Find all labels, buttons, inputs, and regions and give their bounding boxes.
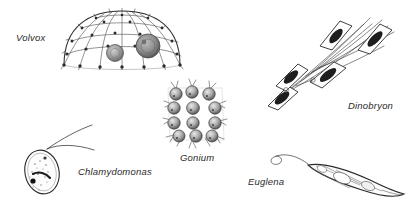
label-chlamydomonas: Chlamydomonas	[78, 166, 152, 177]
organism-euglena	[262, 140, 410, 202]
label-gonium: Gonium	[180, 152, 214, 163]
label-dinobryon: Dinobryon	[348, 100, 393, 111]
dinobryon-lorica	[320, 21, 352, 50]
organism-chlamydomonas	[18, 122, 96, 198]
dinobryon-lorica	[358, 24, 392, 54]
label-volvox: Volvox	[16, 32, 45, 43]
dinobryon-lorica	[276, 64, 308, 91]
volvox-daughter-colony	[107, 34, 161, 62]
organism-dinobryon	[258, 6, 408, 114]
figure-canvas: Volvox	[0, 0, 410, 209]
organism-volvox	[60, 8, 185, 70]
dinobryon-lorica	[310, 62, 346, 88]
organism-gonium	[160, 78, 232, 150]
euglena-flagellum	[271, 155, 308, 165]
chlamydomonas-flagellum-2	[47, 145, 94, 150]
label-euglena: Euglena	[248, 176, 284, 187]
